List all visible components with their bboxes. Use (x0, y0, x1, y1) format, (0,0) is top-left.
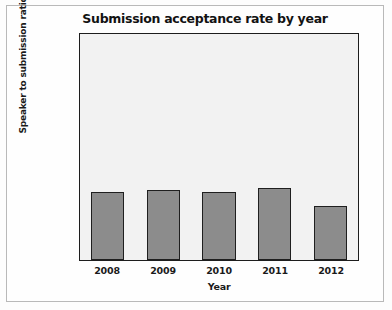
bar-slot-2008 (80, 34, 136, 260)
x-tick-label-2008: 2008 (79, 265, 135, 276)
x-axis-title: Year (79, 281, 359, 292)
x-tick-label-2010: 2010 (191, 265, 247, 276)
bar-2008[interactable] (91, 192, 124, 260)
bar-2009[interactable] (147, 190, 180, 260)
chart-title: Submission acceptance rate by year (40, 11, 370, 26)
x-tick-label-2011: 2011 (247, 265, 303, 276)
bar-slot-2012 (302, 34, 358, 260)
x-axis-tick-labels: 2008 2009 2010 2011 2012 (79, 265, 359, 276)
x-tick-label-2012: 2012 (303, 265, 359, 276)
plot-area (79, 33, 359, 261)
y-axis-title: Speaker to submission ratio (18, 0, 28, 145)
chart-figure: Submission acceptance rate by year Speak… (0, 0, 392, 310)
bar-slot-2010 (191, 34, 247, 260)
x-tick-label-2009: 2009 (135, 265, 191, 276)
bar-2010[interactable] (202, 192, 235, 260)
bar-2011[interactable] (258, 188, 291, 260)
bars-layer (80, 34, 358, 260)
bar-2012[interactable] (314, 206, 347, 260)
bar-slot-2009 (136, 34, 192, 260)
bar-slot-2011 (247, 34, 303, 260)
